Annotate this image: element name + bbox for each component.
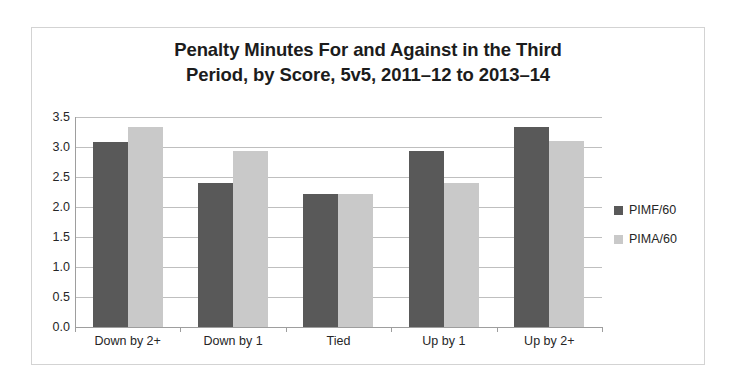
chart-title-line-2: Period, by Score, 5v5, 2011–12 to 2013–1… <box>32 63 704 88</box>
bar <box>444 183 479 327</box>
legend-item: PIMF/60 <box>614 203 700 217</box>
bar <box>549 141 584 327</box>
bar-group <box>75 117 180 327</box>
x-axis-category-label: Up by 1 <box>422 334 465 348</box>
y-axis-tick-label: 3.0 <box>53 140 70 154</box>
chart-container: Penalty Minutes For and Against in the T… <box>31 27 705 365</box>
bar <box>303 194 338 327</box>
y-axis-tick-label: 0.0 <box>53 320 70 334</box>
legend-label: PIMF/60 <box>629 203 676 217</box>
x-axis-category-label: Tied <box>327 334 351 348</box>
y-axis-tick-label: 3.5 <box>53 110 70 124</box>
category-axis-tick <box>497 328 498 332</box>
legend-swatch <box>614 206 623 215</box>
category-axis-tick <box>286 328 287 332</box>
category-axis-tick <box>75 328 76 332</box>
category-axis-tick <box>391 328 392 332</box>
y-axis-tick-labels: 3.53.02.52.01.51.00.50.0 <box>32 117 70 327</box>
y-axis-tick-label: 1.5 <box>53 230 70 244</box>
value-axis-line <box>75 117 76 328</box>
bar <box>233 151 268 327</box>
bar <box>514 127 549 327</box>
bar <box>409 151 444 327</box>
bar-group <box>286 117 391 327</box>
bar-group <box>497 117 602 327</box>
category-axis-ticks <box>75 328 603 332</box>
bar-group <box>180 117 285 327</box>
chart-legend: PIMF/60PIMA/60 <box>614 203 700 261</box>
y-axis-tick-label: 2.0 <box>53 200 70 214</box>
category-axis-tick <box>602 328 603 332</box>
x-axis-category-labels: Down by 2+Down by 1TiedUp by 1Up by 2+ <box>75 334 603 354</box>
y-axis-tick-label: 1.0 <box>53 260 70 274</box>
x-axis-category-label: Down by 1 <box>204 334 263 348</box>
x-axis-category-label: Up by 2+ <box>524 334 574 348</box>
chart-title-line-1: Penalty Minutes For and Against in the T… <box>32 38 704 63</box>
legend-label: PIMA/60 <box>629 232 677 246</box>
chart-title: Penalty Minutes For and Against in the T… <box>32 38 704 87</box>
y-axis-tick-label: 0.5 <box>53 290 70 304</box>
y-axis-tick-label: 2.5 <box>53 170 70 184</box>
x-axis-category-label: Down by 2+ <box>95 334 161 348</box>
bar <box>93 142 128 327</box>
legend-item: PIMA/60 <box>614 232 700 246</box>
bar <box>338 194 373 327</box>
legend-swatch <box>614 235 623 244</box>
category-axis-tick <box>180 328 181 332</box>
bar <box>198 183 233 327</box>
bar-group <box>391 117 496 327</box>
plot-area <box>75 117 602 327</box>
bar <box>128 127 163 327</box>
